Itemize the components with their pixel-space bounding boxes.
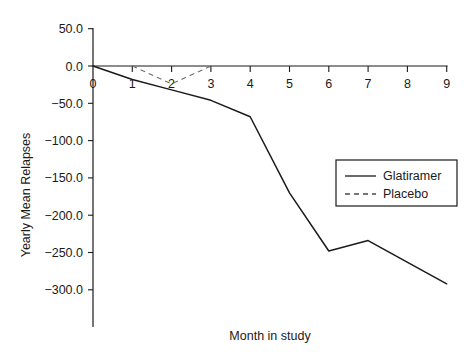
y-axis-tick-marks bbox=[88, 29, 93, 290]
y-tick-label: −300.0 bbox=[44, 283, 83, 297]
x-axis-tick-labels: 0123456789 bbox=[90, 77, 451, 91]
y-tick-label: 50.0 bbox=[59, 22, 83, 36]
chart-page: 50.00.0−50.0−100.0−150.0−200.0−250.0−300… bbox=[0, 0, 475, 358]
x-axis-tick-marks bbox=[132, 66, 446, 72]
chart-legend: Glatiramer Placebo bbox=[336, 160, 457, 206]
x-tick-label: 5 bbox=[286, 77, 293, 91]
legend-label-placebo: Placebo bbox=[383, 187, 428, 201]
x-tick-label: 7 bbox=[365, 77, 372, 91]
relapse-line-chart: 50.00.0−50.0−100.0−150.0−200.0−250.0−300… bbox=[0, 0, 475, 358]
y-tick-label: 0.0 bbox=[66, 60, 83, 74]
y-tick-label: −50.0 bbox=[51, 97, 83, 111]
x-tick-label: 9 bbox=[443, 77, 450, 91]
y-tick-label: −150.0 bbox=[44, 171, 83, 185]
x-tick-label: 8 bbox=[404, 77, 411, 91]
y-axis-tick-labels: 50.00.0−50.0−100.0−150.0−200.0−250.0−300… bbox=[44, 22, 83, 297]
x-axis-title: Month in study bbox=[229, 329, 311, 343]
legend-label-glatiramer: Glatiramer bbox=[383, 169, 441, 183]
y-tick-label: −250.0 bbox=[44, 246, 83, 260]
y-tick-label: −100.0 bbox=[44, 134, 83, 148]
x-tick-label: 6 bbox=[325, 77, 332, 91]
y-axis-title: Yearly Mean Relapses bbox=[19, 133, 33, 258]
x-tick-label: 3 bbox=[207, 77, 214, 91]
x-tick-label: 4 bbox=[247, 77, 254, 91]
y-tick-label: −200.0 bbox=[44, 209, 83, 223]
